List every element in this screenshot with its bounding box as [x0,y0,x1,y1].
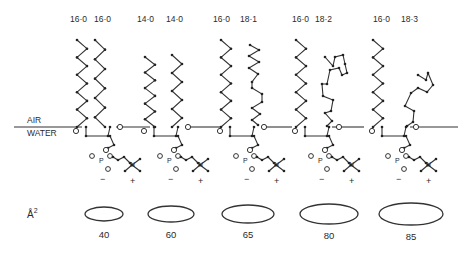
carbonyl-oxygen [117,124,122,129]
phosphate-oxygen [402,167,407,172]
carbon-atom [251,107,254,110]
methyl-group [428,165,436,171]
chain-labels: 16·0 16·0 14·0 14·0 16·0 18·1 16·0 18·2 … [70,14,418,24]
carbon-atom [192,170,195,173]
glycerol-backbone [305,127,329,136]
carbon-atom [181,144,184,147]
carbon-atom [86,117,89,120]
carbon-atom [171,126,174,129]
carbon-atom [417,74,420,77]
carbon-atom [86,47,89,50]
carbon-atom [251,119,254,122]
carbon-atom [94,77,97,80]
carbon-atom [220,56,223,59]
methyl-group [193,165,200,171]
carbon-atom [382,82,385,85]
carbon-atom [181,99,184,102]
phosphate-oxygen [106,167,111,172]
area-ellipses [85,203,443,225]
methyl-group [125,165,132,171]
carbon-atom [199,164,202,167]
phosphate-oxygen [404,154,409,159]
area-values: 40 60 65 80 85 [99,229,417,242]
carbon-atom [338,67,341,70]
carbon-atom [328,126,331,129]
carbon-atom [344,63,347,66]
carbon-atom [382,100,385,103]
carbon-atom [220,108,223,111]
ester-oxygen [171,147,176,152]
ester-oxygen [399,147,404,152]
carbon-atom [117,159,120,162]
carbon-atom [341,74,344,77]
carbon-atom [154,79,157,82]
carbon-atom [229,135,232,138]
glycerol-backbone [230,127,254,136]
methyl-group [269,165,276,171]
carbon-atom [230,117,233,120]
carbon-atom [283,170,286,173]
lipid-4-chain-2-label: 18·2 [315,14,332,24]
methyl-group [351,165,359,171]
carbon-atom [181,81,184,84]
phosphate-oxygen [176,154,181,159]
area-ellipse-lipid-4 [300,204,358,224]
carbon-atom [251,81,254,84]
glycerol-link [327,136,333,148]
carbon-atom [153,135,156,138]
carbon-atom [346,72,349,75]
carbon-atom [372,56,375,59]
carbon-atom [259,113,262,116]
carbon-atom [381,135,384,138]
carbon-atom [256,156,259,159]
lipid-3-chain-2-label: 18·1 [240,14,257,24]
carbon-atom [139,170,142,173]
carbon-atom [180,156,183,159]
carbon-atom [358,158,361,161]
carbon-atom [220,91,223,94]
choline-chain [257,157,274,163]
lipid-1-chain-1-label: 16·0 [70,14,87,24]
carbon-atom [144,56,147,59]
carbon-atom [331,156,334,159]
carbon-atom [427,164,430,167]
carbon-atom [230,82,233,85]
carbon-atom [220,39,223,42]
carbon-atom [332,99,335,102]
carbon-atom [322,95,325,98]
carbon-atom [427,72,430,75]
lipid-molecule-1: PN−+ [73,39,141,186]
carbon-atom [417,87,420,90]
carbon-atom [144,118,147,121]
carbon-atom [331,120,334,123]
area-value-lipid-4: 80 [324,230,335,241]
carbon-atom [177,126,180,129]
lipid-molecules: PN−+PN−+PN−+PN−+PN−+ [73,39,437,186]
carbon-atom [230,100,233,103]
carbon-atom [275,164,278,167]
carbon-atom [123,156,126,159]
phosphate-oxygen [108,154,113,159]
ester-oxygen [322,147,327,152]
carbon-atom [85,135,88,138]
carbon-atom [295,108,298,111]
area-unit-label: Å2 [27,207,38,220]
carbon-atom [86,82,89,85]
carbon-atom [268,170,271,173]
carbon-atom [104,106,107,109]
carbon-atom [405,135,408,138]
carbon-atom [435,158,438,161]
phosphorus-atom: P [395,157,400,164]
methyl-group [132,165,140,171]
area-value-lipid-1: 40 [99,229,110,240]
carbon-atom [372,108,375,111]
negative-charge: − [168,174,173,184]
carbon-atom [154,95,157,98]
lipid-4-chain-1-label: 16·0 [292,14,309,24]
phosphate-oxygen [250,167,255,172]
choline-chain [409,157,426,163]
carbon-atom [413,110,416,113]
carbon-atom [154,110,157,113]
carbon-atom [405,126,408,129]
lipid-1-chain-2-label: 16·0 [94,14,111,24]
